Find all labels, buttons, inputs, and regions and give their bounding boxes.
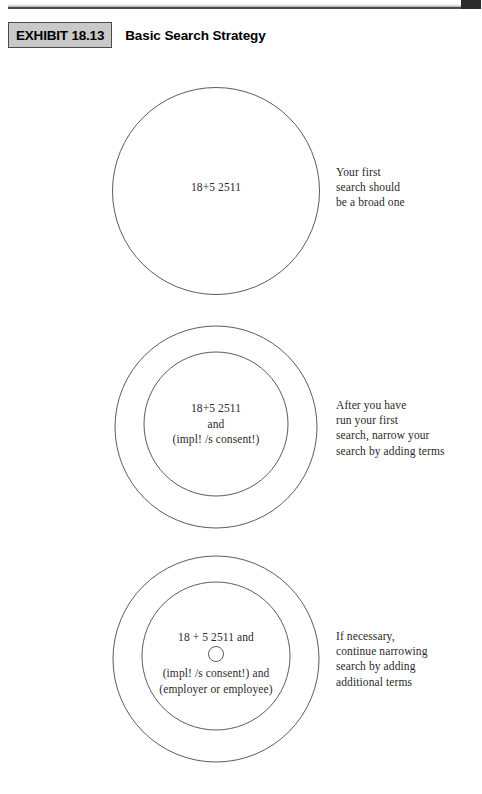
stage-3-circle-text-bottom: (impl! /s consent!) and (employer or emp… xyxy=(131,666,301,697)
stage-3-circle-text-top: 18 + 5 2511 and xyxy=(141,630,291,646)
stage-1-circle-text: 18+5 2511 xyxy=(141,180,291,196)
stage-3-middle-circle xyxy=(142,582,290,730)
search-strategy-diagram: 18+5 2511 Your first search should be a … xyxy=(0,0,482,794)
stage-3-annotation: If necessary, continue narrowing search … xyxy=(336,629,466,690)
stage-2-annotation: After you have run your first search, na… xyxy=(336,398,466,459)
stage-3-inner-circle xyxy=(209,647,224,662)
stage-3-outer-circle xyxy=(113,556,319,762)
stage-1-annotation: Your first search should be a broad one xyxy=(336,165,456,211)
stage-2-circle-text: 18+5 2511 and (impl! /s consent!) xyxy=(141,401,291,448)
